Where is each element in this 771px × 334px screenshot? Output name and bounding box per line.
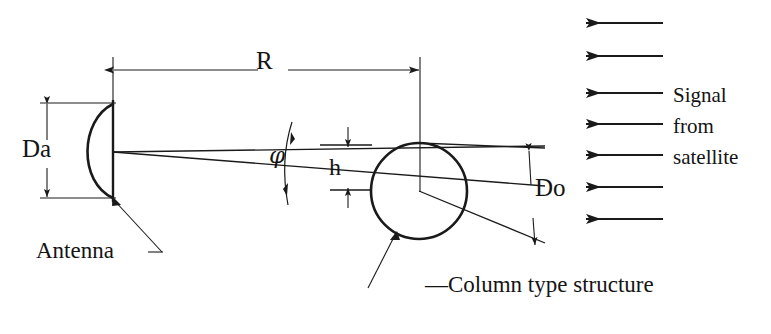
label-signal-line-1: Signal	[673, 85, 727, 106]
label-R: R	[256, 48, 273, 73]
leader-column	[368, 231, 400, 288]
antenna-dish	[87, 100, 113, 202]
figure-canvas: R Da φ h Do Antenna —Column type structu…	[0, 0, 771, 334]
dimension-R	[113, 57, 420, 205]
signal-arrows	[586, 23, 663, 219]
leader-antenna	[112, 197, 163, 252]
label-signal-line-3: satellite	[673, 147, 738, 168]
label-antenna: Antenna	[36, 239, 114, 262]
label-Da: Da	[22, 136, 51, 161]
label-signal-line-2: from	[673, 116, 714, 137]
label-Do: Do	[535, 175, 566, 200]
dimension-h	[320, 127, 372, 208]
dimension-Da	[40, 103, 116, 198]
technical-diagram	[0, 0, 771, 334]
label-phi: φ	[269, 144, 285, 167]
label-h: h	[329, 155, 341, 179]
label-column-type-structure: —Column type structure	[425, 273, 654, 296]
